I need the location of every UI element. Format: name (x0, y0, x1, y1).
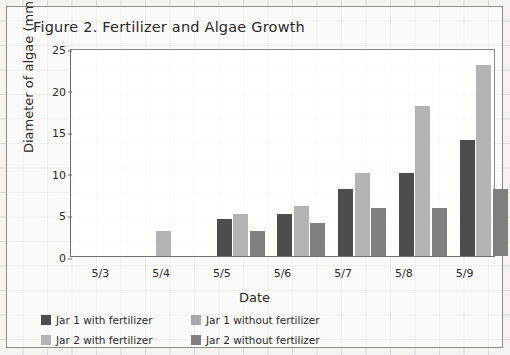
y-tick-label: 15 (52, 127, 66, 140)
legend-item: Jar 1 with fertilizer (41, 314, 191, 326)
bar (217, 219, 232, 256)
legend-swatch (41, 335, 51, 345)
bar (399, 173, 414, 256)
x-tick-label: 5/4 (152, 267, 170, 280)
legend-label: Jar 1 with fertilizer (56, 314, 152, 326)
bar (250, 231, 265, 256)
bar (233, 214, 248, 256)
chart-legend: Jar 1 with fertilizerJar 1 without ferti… (41, 314, 351, 346)
x-tick-label: 5/5 (213, 267, 231, 280)
bar (371, 208, 386, 256)
x-tick-label: 5/3 (91, 267, 109, 280)
bar-group (277, 50, 338, 256)
bar-group (156, 50, 217, 256)
y-tick-label: 20 (52, 85, 66, 98)
y-tick-label: 10 (52, 168, 66, 181)
x-tick-label: 5/8 (395, 267, 413, 280)
bar (355, 173, 370, 256)
bar (310, 223, 325, 256)
legend-label: Jar 2 without fertilizer (206, 334, 320, 346)
legend-swatch (191, 315, 201, 325)
bar (294, 206, 309, 256)
figure-container: Figure 2. Fertilizer and Algae Growth Di… (6, 6, 503, 348)
bar (338, 189, 353, 256)
bar (277, 214, 292, 256)
legend-swatch (191, 335, 201, 345)
x-axis-label: Date (7, 290, 502, 305)
bar-group (217, 50, 278, 256)
legend-label: Jar 1 without fertilizer (206, 314, 320, 326)
legend-label: Jar 2 with fertilizer (56, 334, 152, 346)
bar (460, 140, 475, 256)
bar-group (95, 50, 156, 256)
chart-title: Figure 2. Fertilizer and Algae Growth (33, 19, 305, 35)
plot-area: 0510152025 (70, 49, 495, 257)
x-tick-label: 5/9 (456, 267, 474, 280)
bar (432, 208, 447, 256)
bar (493, 189, 508, 256)
bar (156, 231, 171, 256)
x-tick-label: 5/7 (334, 267, 352, 280)
bar (476, 65, 491, 256)
x-tick-label: 5/6 (274, 267, 292, 280)
bar-group (338, 50, 399, 256)
bar (415, 106, 430, 256)
bar-group (399, 50, 460, 256)
y-tick-label: 0 (59, 252, 66, 265)
y-tick-label: 25 (52, 44, 66, 57)
legend-item: Jar 1 without fertilizer (191, 314, 351, 326)
y-axis-label: Diameter of algae (mm) (21, 0, 36, 153)
legend-swatch (41, 315, 51, 325)
bar-group (460, 50, 510, 256)
y-tick-label: 5 (59, 210, 66, 223)
legend-item: Jar 2 with fertilizer (41, 334, 191, 346)
legend-item: Jar 2 without fertilizer (191, 334, 351, 346)
